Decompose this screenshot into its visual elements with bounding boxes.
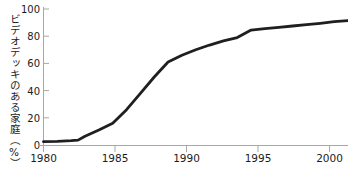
- chart-container: ビデオデッキのある家庭（%） 100 80 60 40 20 0: [0, 0, 348, 177]
- x-tick-label-2000: 2000: [316, 152, 343, 164]
- x-tick-label-1995: 1995: [245, 152, 272, 164]
- x-axis-tick-label-group: 1980 1985 1990 1995 2000: [0, 152, 348, 172]
- x-tick-label-1985: 1985: [102, 152, 129, 164]
- data-line-vcr-households: [44, 21, 348, 142]
- x-tick-label-1980: 1980: [30, 152, 57, 164]
- plot-area: [0, 0, 348, 177]
- x-tick-label-1990: 1990: [173, 152, 200, 164]
